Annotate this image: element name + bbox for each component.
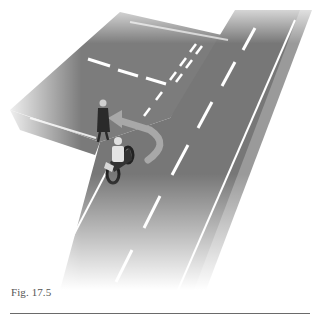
road-scene-svg: [0, 0, 325, 290]
divider-rule: [10, 313, 310, 314]
road-illustration: [0, 0, 325, 290]
figure-caption: Fig. 17.5: [11, 286, 51, 298]
